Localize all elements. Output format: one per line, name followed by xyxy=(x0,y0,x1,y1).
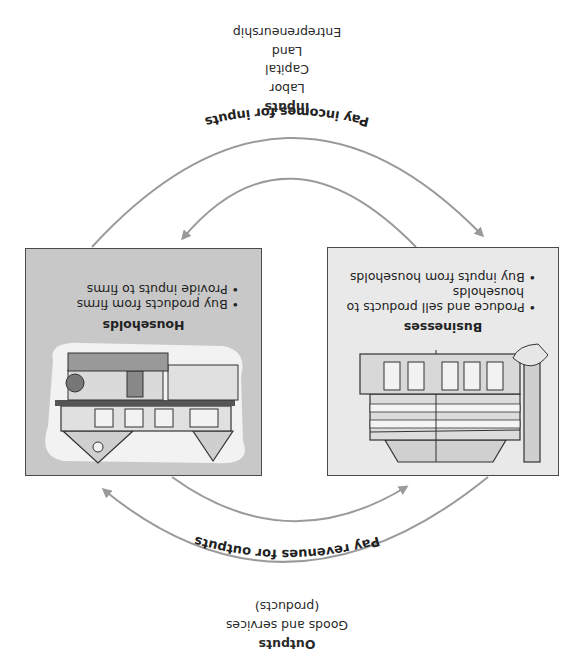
outputs-line2: (products) xyxy=(0,599,574,614)
inputs-heading: Inputs xyxy=(0,100,574,115)
outputs-heading: Outputs xyxy=(0,637,574,652)
revenues-label: Pay revenues for outputs xyxy=(192,533,381,562)
households-bullet: • Provide inputs to firms xyxy=(39,282,239,297)
businesses-bullet: • Produce and sell products to household… xyxy=(336,285,536,315)
inputs-flow-arrow xyxy=(92,138,482,247)
households-bullets: • Buy products from firms • Provide inpu… xyxy=(39,282,239,312)
households-box: Households • Buy products from firms • P… xyxy=(25,248,262,476)
businesses-bullet: • Buy inputs from households xyxy=(336,270,536,285)
revenues-flow-arrow xyxy=(172,477,406,521)
businesses-bullets: • Produce and sell products to household… xyxy=(336,270,536,315)
households-title: Households xyxy=(26,318,261,333)
house-illustration xyxy=(38,336,253,471)
businesses-title: Businesses xyxy=(328,320,558,335)
businesses-box: Businesses • Produce and sell products t… xyxy=(327,247,559,476)
outputs-line1: Goods and services xyxy=(0,618,574,633)
inputs-item-labor: Labor xyxy=(0,81,574,96)
factory-illustration xyxy=(319,340,548,470)
inputs-item-capital: Capital xyxy=(0,62,574,77)
inputs-item-land: Land xyxy=(0,44,574,59)
incomes-flow-arrow xyxy=(183,179,416,247)
households-bullet: • Buy products from firms xyxy=(39,297,239,312)
inputs-item-entrepreneurship: Entrepreneurship xyxy=(0,25,574,40)
circular-flow-diagram: Pay revenues for outputs Pay incomes for… xyxy=(0,0,574,660)
